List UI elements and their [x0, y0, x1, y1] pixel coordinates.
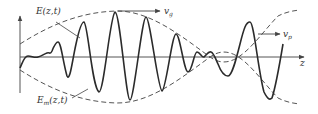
envelope-label: Em(z,t)	[36, 95, 68, 106]
envelope-pointer	[72, 89, 88, 98]
phase-velocity-label: vp	[283, 29, 292, 41]
z-axis-label: z	[299, 58, 305, 68]
carrier-wave	[20, 12, 283, 100]
group-velocity-label: vg	[164, 6, 173, 18]
carrier-label: E(z,t)	[35, 6, 61, 16]
carrier-pointer	[56, 22, 80, 38]
wave-packet-diagram: z E(z,t) Em(z,t) vg vp	[0, 0, 318, 114]
